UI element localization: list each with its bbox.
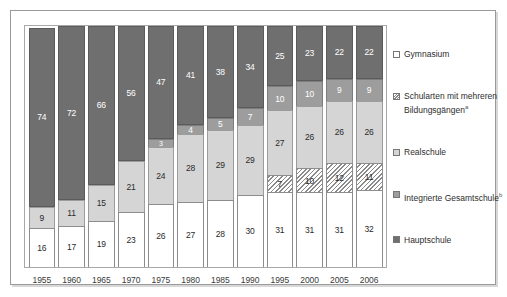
bar-segment-hauptschule: 38 xyxy=(207,26,234,118)
bar-column-1970: 562123 xyxy=(118,26,145,267)
bar-column-1965: 661519 xyxy=(88,26,115,267)
bar-segment-gymnasium: 30 xyxy=(237,195,264,267)
legend-item-realschule: Realschule xyxy=(393,147,503,158)
bar-segment-value: 56 xyxy=(126,89,135,98)
bar-segment-gymnasium: 28 xyxy=(207,200,234,267)
bar-segment-value: 31 xyxy=(335,226,344,235)
legend-item-igs: Integrierte Gesamtschuleb xyxy=(393,190,503,204)
bar-segment-value: 26 xyxy=(156,232,165,241)
x-axis-tick-labels: 1955196019651970197519801985199019952000… xyxy=(24,269,387,291)
bar-segment-value: 32 xyxy=(364,225,373,234)
bar-segment-value: 26 xyxy=(335,128,344,137)
bar-segment-schularten-mehrere-bildungsgaenge: 7 xyxy=(267,175,294,192)
legend-label: Realschule xyxy=(404,147,503,158)
legend-label: Schularten mit mehreren Bildungsgängena xyxy=(404,91,503,116)
bar-segment-value: 26 xyxy=(305,133,314,142)
bar-segment-integrierte-gesamtschule: 4 xyxy=(177,125,204,135)
bar-segment-value: 12 xyxy=(334,174,345,183)
legend-swatch-realschule-icon xyxy=(393,149,400,156)
bar-segment-realschule: 26 xyxy=(296,106,323,169)
bar-segment-value: 11 xyxy=(67,209,76,218)
plot-area: 7491672111766151956212347324264142827385… xyxy=(24,25,387,268)
bar-segment-integrierte-gesamtschule: 10 xyxy=(296,81,323,105)
bar-segment-gymnasium: 31 xyxy=(326,192,353,267)
bar-segment-realschule: 26 xyxy=(326,101,353,164)
bar-segment-value: 26 xyxy=(364,128,373,137)
x-tick-1980: 1980 xyxy=(177,275,204,285)
bar-segment-value: 11 xyxy=(364,173,375,182)
x-tick-1960: 1960 xyxy=(58,275,85,285)
bar-column-1995: 251027731 xyxy=(267,26,294,267)
bar-segment-value: 24 xyxy=(156,172,165,181)
bar-segment-hauptschule: 22 xyxy=(326,26,353,79)
bar-segment-integrierte-gesamtschule: 9 xyxy=(356,79,383,101)
bar-segment-value: 19 xyxy=(97,240,106,249)
bar-segment-schularten-mehrere-bildungsgaenge: 12 xyxy=(326,163,353,192)
bar-segment-value: 15 xyxy=(97,199,106,208)
bar-segment-value: 29 xyxy=(216,161,225,170)
bar-column-1955: 74916 xyxy=(29,26,56,267)
x-tick-1965: 1965 xyxy=(88,275,115,285)
x-tick-1995: 1995 xyxy=(267,275,294,285)
legend-swatch-hauptschule-icon xyxy=(393,236,400,243)
bar-segment-realschule: 9 xyxy=(29,207,56,229)
chart-legend: GymnasiumSchularten mit mehreren Bildung… xyxy=(393,25,503,268)
bar-segment-gymnasium: 16 xyxy=(29,228,56,267)
bar-segment-integrierte-gesamtschule: 7 xyxy=(237,108,264,125)
bar-column-1985: 3852928 xyxy=(207,26,234,267)
bar-segment-realschule: 29 xyxy=(237,125,264,195)
bar-segment-value: 21 xyxy=(126,183,135,192)
legend-label: Integrierte Gesamtschuleb xyxy=(404,190,503,204)
bar-segment-schularten-mehrere-bildungsgaenge: 11 xyxy=(356,163,383,190)
bar-segment-hauptschule: 22 xyxy=(356,26,383,79)
bar-segment-gymnasium: 32 xyxy=(356,190,383,267)
x-tick-1990: 1990 xyxy=(237,275,264,285)
bar-segment-gymnasium: 19 xyxy=(88,221,115,267)
bar-segment-value: 16 xyxy=(37,244,46,253)
legend-swatch-gymnasium-icon xyxy=(393,51,400,58)
bar-segment-realschule: 26 xyxy=(356,101,383,164)
bar-segment-value: 7 xyxy=(248,113,253,122)
bar-segment-realschule: 21 xyxy=(118,161,145,212)
bar-segment-value: 9 xyxy=(367,86,372,95)
bar-segment-realschule: 29 xyxy=(207,130,234,200)
bar-segment-value: 17 xyxy=(67,243,76,252)
figure: 7491672111766151956212347324264142827385… xyxy=(0,0,507,297)
bar-segment-hauptschule: 23 xyxy=(296,26,323,81)
legend-label: Hauptschule xyxy=(404,235,503,246)
bar-segment-realschule: 27 xyxy=(267,110,294,175)
bar-segment-value: 27 xyxy=(186,231,195,240)
bar-segment-value: 38 xyxy=(216,68,225,77)
bar-segment-value: 74 xyxy=(37,113,46,122)
bar-segment-value: 25 xyxy=(275,52,284,61)
bar-segment-hauptschule: 25 xyxy=(267,26,294,86)
bar-segment-value: 27 xyxy=(275,139,284,148)
stacked-bars: 7491672111766151956212347324264142827385… xyxy=(25,26,386,267)
bar-segment-value: 47 xyxy=(156,78,165,87)
legend-label: Gymnasium xyxy=(404,49,503,60)
bar-segment-gymnasium: 31 xyxy=(296,192,323,267)
legend-swatch-mehrere-icon xyxy=(393,93,400,100)
legend-footnote-marker: a xyxy=(465,104,468,110)
legend-item-gymnasium: Gymnasium xyxy=(393,49,503,60)
bar-segment-value: 22 xyxy=(335,48,344,57)
bar-segment-hauptschule: 47 xyxy=(148,26,175,139)
bar-column-1990: 3472930 xyxy=(237,26,264,267)
x-tick-2005: 2005 xyxy=(326,275,353,285)
x-tick-1975: 1975 xyxy=(148,275,175,285)
bar-segment-gymnasium: 31 xyxy=(267,192,294,267)
x-tick-2000: 2000 xyxy=(296,275,323,285)
bar-segment-integrierte-gesamtschule: 3 xyxy=(148,139,175,146)
bar-segment-value: 10 xyxy=(305,90,314,99)
bar-segment-gymnasium: 17 xyxy=(58,226,85,267)
x-tick-1970: 1970 xyxy=(118,275,145,285)
bar-column-1960: 721117 xyxy=(58,26,85,267)
bar-segment-value: 10 xyxy=(275,95,284,104)
bar-segment-value: 28 xyxy=(216,230,225,239)
bar-column-2006: 229261132 xyxy=(356,26,383,267)
bar-segment-gymnasium: 23 xyxy=(118,212,145,267)
bar-segment-value: 31 xyxy=(305,226,314,235)
bar-column-1975: 4732426 xyxy=(148,26,175,267)
bar-column-1980: 4142827 xyxy=(177,26,204,267)
bar-segment-value: 9 xyxy=(337,86,342,95)
